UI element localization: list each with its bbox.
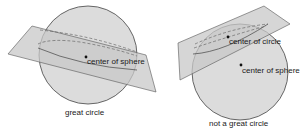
diagram-canvas [0, 0, 307, 130]
small-circle-figure [178, 6, 290, 120]
right-circle-center-label: center of circle [229, 38, 281, 46]
right-caption: not a great circle [209, 120, 268, 128]
right-sphere-center-label: center of sphere [242, 67, 300, 75]
left-caption: great circle [65, 109, 104, 117]
great-circle-figure [8, 6, 156, 104]
left-center-label: center of sphere [87, 58, 145, 66]
